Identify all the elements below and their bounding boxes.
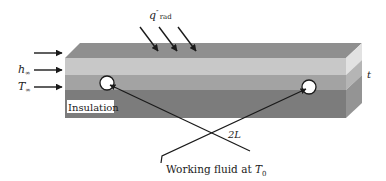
fluid-channel-right bbox=[302, 80, 316, 94]
h-infinity-label: h∞ bbox=[18, 63, 31, 77]
thickness-label: t bbox=[367, 69, 372, 80]
T-infinity-label: T∞ bbox=[18, 80, 31, 94]
radiation-flux-label: q″rad bbox=[149, 9, 172, 22]
working-fluid-label: Working fluid at T0 bbox=[166, 163, 266, 178]
spacing-label: 2L bbox=[227, 129, 241, 140]
slab-diagram: Insulation 2L Working fluid at T0 h∞ T∞ … bbox=[0, 0, 386, 181]
slab-top-face bbox=[65, 43, 362, 58]
layer-light bbox=[65, 58, 346, 75]
insulation-label: Insulation bbox=[68, 102, 119, 113]
fluid-channel-left bbox=[100, 76, 114, 90]
